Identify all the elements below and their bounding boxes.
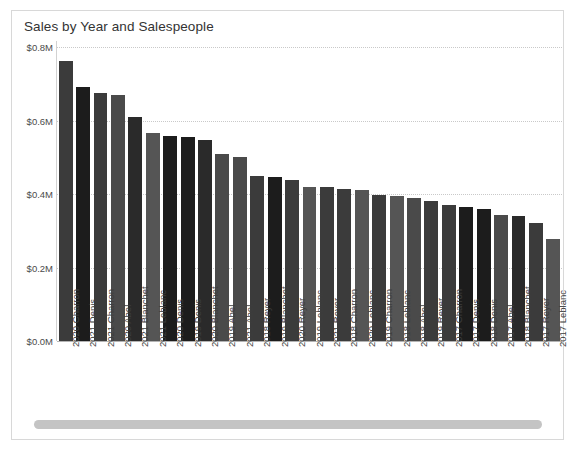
x-axis-tick-label: 2017 Denis (470, 299, 481, 347)
y-axis: $0.0M$0.2M$0.4M$0.6M$0.8M (12, 11, 57, 441)
x-axis-tick-label: 2017 Reyer (540, 298, 551, 347)
x-axis-tick-label: 2019 Blanchet (279, 286, 290, 347)
x-axis-tick-label: 2020 Charron (70, 289, 81, 347)
x-axis-tick-label: 2021 Leblanc (157, 290, 168, 347)
x-axis-tick-label: 2019 Leblanc (314, 290, 325, 347)
x-axis-tick-label: 2020 Reyer (296, 298, 307, 347)
x-axis-tick-label: 2021 Charron (105, 289, 116, 347)
y-axis-tick-label: $0.8M (27, 42, 53, 53)
x-axis-tick-label: 2021 Reyer (331, 298, 342, 347)
y-axis-tick-label: $0.2M (27, 262, 53, 273)
x-axis-tick-label: 2018 Reyer (261, 298, 272, 347)
x-axis-tick-label: 2021 Abel (244, 305, 255, 347)
x-axis-tick-label: 2020 Leblanc (366, 290, 377, 347)
x-axis-tick-label: 2020 Abel (122, 305, 133, 347)
x-axis-tick-label: 2021 Denis (87, 299, 98, 347)
x-axis-tick-label: 2019 Reyer (435, 298, 446, 347)
x-axis-tick-label: 2017 Charron (453, 289, 464, 347)
x-axis-tick-label: 2020 Denis (174, 299, 185, 347)
horizontal-scrollbar-thumb[interactable] (34, 420, 542, 429)
x-axis-labels: 2020 Charron2021 Denis2021 Charron2020 A… (57, 11, 562, 441)
x-axis-tick-label: 2020 Blanchet (209, 286, 220, 347)
y-axis-tick-label: $0.6M (27, 115, 53, 126)
x-axis-tick-label: 2018 Denis (488, 299, 499, 347)
y-axis-tick-label: $0.4M (27, 189, 53, 200)
x-axis-tick-label: 2017 Abel (505, 305, 516, 347)
horizontal-scrollbar[interactable] (34, 420, 542, 429)
x-axis-tick-label: 2017 Leblanc (557, 290, 568, 347)
x-axis-tick-label: 2018 Charron (348, 289, 359, 347)
x-axis-tick-label: 2021 Blanchet (139, 286, 150, 347)
visualization-frame: Sales by Year and Salespeople $0.0M$0.2M… (11, 10, 564, 440)
x-axis-tick-label: 2018 Abel (418, 305, 429, 347)
x-axis-tick-label: 2019 Charron (383, 289, 394, 347)
x-axis-tick-label: 2018 Blanchet (522, 286, 533, 347)
chart-plot-area: $0.0M$0.2M$0.4M$0.6M$0.8M 2020 Charron20… (12, 11, 565, 441)
x-axis-tick-label: 2019 Abel (226, 305, 237, 347)
x-axis-tick-label: 2019 Denis (192, 299, 203, 347)
y-axis-tick-label: $0.0M (27, 336, 53, 347)
x-axis-tick-label: 2018 Leblanc (401, 290, 412, 347)
